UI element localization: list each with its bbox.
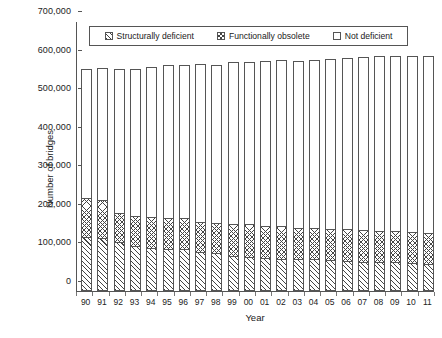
y-tick-label: 0 (66, 276, 77, 286)
bar-segment-structurally-deficient (260, 258, 271, 291)
bar-segment-structurally-deficient (146, 248, 157, 291)
bar-segment-not-deficient (293, 61, 304, 229)
y-tick-label: 400,000 (38, 122, 77, 132)
bar-segment-functionally-obsolete (358, 230, 369, 262)
bar-segment-not-deficient (228, 62, 239, 224)
bar-segment-functionally-obsolete (423, 233, 434, 265)
bar-segment-functionally-obsolete (276, 226, 287, 259)
x-tick-mark (222, 292, 223, 296)
legend-swatch-not-deficient-icon (333, 32, 341, 40)
y-tick-mark (78, 11, 82, 12)
bar-09 (390, 57, 401, 292)
x-tick-mark (304, 292, 305, 296)
x-tick-mark (157, 292, 158, 296)
bar-segment-structurally-deficient (390, 262, 401, 291)
x-tick-mark (125, 292, 126, 296)
x-tick-label: 10 (406, 297, 415, 307)
bar-00 (244, 63, 255, 291)
bar-segment-functionally-obsolete (163, 218, 174, 250)
x-tick-label: 95 (162, 297, 171, 307)
chart-legend: Structurally deficient Functionally obso… (89, 26, 408, 46)
bar-segment-functionally-obsolete (260, 226, 271, 259)
x-tick-label: 08 (374, 297, 383, 307)
bar-96 (179, 66, 190, 291)
bar-segment-structurally-deficient (358, 262, 369, 291)
bar-91 (97, 69, 108, 291)
x-tick-label: 94 (146, 297, 155, 307)
x-tick-label: 99 (227, 297, 236, 307)
legend-item-functionally-obsolete: Functionally obsolete (217, 31, 310, 41)
legend-swatch-structurally-deficient-icon (105, 32, 113, 40)
bar-segment-not-deficient (276, 60, 287, 227)
bar-04 (309, 61, 320, 291)
x-tick-label: 01 (260, 297, 269, 307)
legend-item-not-deficient: Not deficient (333, 31, 393, 41)
bar-10 (407, 57, 418, 291)
x-tick-label: 91 (97, 297, 106, 307)
bar-segment-not-deficient (179, 65, 190, 219)
bar-segment-not-deficient (423, 56, 434, 234)
bar-02 (276, 61, 287, 291)
legend-item-structurally-deficient: Structurally deficient (105, 31, 194, 41)
x-tick-mark (320, 292, 321, 296)
x-tick-mark (271, 292, 272, 296)
bar-segment-not-deficient (260, 61, 271, 227)
bar-segment-not-deficient (163, 65, 174, 219)
x-tick-label: 03 (292, 297, 301, 307)
bar-98 (211, 66, 222, 291)
bar-92 (114, 70, 125, 291)
x-tick-label: 98 (211, 297, 220, 307)
x-tick-mark (288, 292, 289, 296)
bar-segment-structurally-deficient (81, 237, 92, 291)
y-tick-label: 700,000 (38, 6, 77, 16)
bar-segment-functionally-obsolete (81, 198, 92, 238)
bar-01 (260, 62, 271, 291)
x-tick-label: 05 (325, 297, 334, 307)
legend-label-not-deficient: Not deficient (345, 31, 393, 41)
bar-segment-structurally-deficient (423, 264, 434, 291)
bar-segment-functionally-obsolete (195, 222, 206, 253)
x-tick-label: 07 (358, 297, 367, 307)
bar-segment-not-deficient (146, 67, 157, 218)
bar-segment-functionally-obsolete (244, 224, 255, 258)
bar-95 (163, 66, 174, 291)
x-tick-mark (92, 292, 93, 296)
bar-segment-not-deficient (195, 64, 206, 222)
bar-segment-functionally-obsolete (211, 223, 222, 255)
x-tick-label: 06 (341, 297, 350, 307)
bar-segment-structurally-deficient (374, 262, 385, 291)
x-tick-label: 09 (390, 297, 399, 307)
bar-segment-not-deficient (211, 65, 222, 224)
bridge-condition-stacked-bar-chart: Number of bridges 0100,000200,000300,000… (0, 0, 442, 338)
bar-segment-structurally-deficient (228, 256, 239, 291)
x-tick-label: 90 (81, 297, 90, 307)
bar-90 (81, 70, 92, 291)
bar-segment-structurally-deficient (211, 253, 222, 291)
bar-segment-not-deficient (114, 69, 125, 214)
x-tick-mark (141, 292, 142, 296)
x-tick-mark (255, 292, 256, 296)
x-tick-mark (418, 292, 419, 296)
bar-segment-structurally-deficient (293, 259, 304, 291)
bar-segment-not-deficient (309, 60, 320, 229)
x-tick-mark (109, 292, 110, 296)
bar-segment-not-deficient (81, 69, 92, 199)
bar-segment-not-deficient (390, 56, 401, 233)
bar-segment-structurally-deficient (244, 257, 255, 291)
bar-segment-functionally-obsolete (374, 231, 385, 263)
bar-99 (228, 63, 239, 291)
x-tick-mark (239, 292, 240, 296)
bar-segment-structurally-deficient (179, 249, 190, 291)
bar-segment-not-deficient (342, 58, 353, 231)
y-tick-label: 100,000 (38, 237, 77, 247)
bar-segment-functionally-obsolete (390, 231, 401, 263)
bar-segment-structurally-deficient (342, 261, 353, 291)
x-tick-label: 92 (113, 297, 122, 307)
y-tick-label: 600,000 (38, 45, 77, 55)
bar-segment-functionally-obsolete (309, 228, 320, 260)
x-axis-title: Year (76, 312, 434, 323)
bar-segment-structurally-deficient (325, 260, 336, 291)
bar-segment-structurally-deficient (114, 242, 125, 291)
bar-11 (423, 57, 434, 292)
bar-08 (374, 57, 385, 291)
